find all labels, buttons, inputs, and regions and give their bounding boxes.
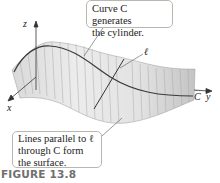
callout-line: the cylinder. [92,27,167,39]
figure-caption: FIGURE 13.8 [1,168,76,180]
callout-line: through C form [18,145,96,157]
callout-lines-parallel: Lines parallel to ℓ through C form the s… [12,131,102,168]
callout-line: Lines parallel to ℓ [18,133,96,145]
callout-curve-generates: Curve C generates the cylinder. [86,0,173,28]
line-ell-label: ℓ [144,46,148,57]
figure: z x y C ℓ Curve C generates the cylinder… [0,0,220,183]
curve-c-label: C [194,91,201,102]
callout-line: Curve C generates [92,3,167,27]
x-axis-label: x [7,102,11,113]
z-axis-label: z [23,18,27,29]
surface [12,42,195,124]
y-axis-label: y [206,91,210,102]
